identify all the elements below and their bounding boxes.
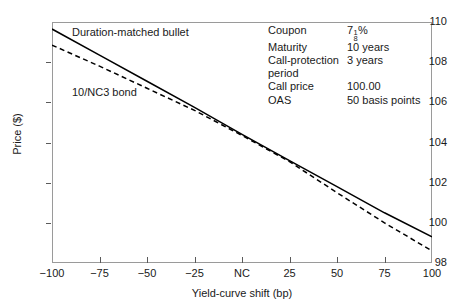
param-row: Call-protection3 years — [268, 54, 420, 67]
param-label: Maturity — [268, 41, 347, 54]
x-tick-mark — [100, 257, 101, 263]
param-row: Call price100.00 — [268, 80, 420, 93]
x-tick-label: 25 — [268, 268, 312, 279]
series-label-callable: 10/NC3 bond — [72, 86, 137, 98]
x-tick-mark — [147, 257, 148, 263]
x-tick-mark — [290, 257, 291, 263]
coupon-whole: 7 — [347, 24, 353, 36]
param-row: Coupon718% — [268, 24, 420, 41]
param-value: 100.00 — [347, 80, 381, 93]
y-tick-label: 102 — [401, 177, 447, 188]
y-tick-mark — [46, 102, 51, 103]
param-value: 3 years — [347, 54, 383, 67]
x-tick-label: 75 — [363, 268, 407, 279]
param-row: Maturity10 years — [268, 41, 420, 54]
coupon-percent-sign: % — [358, 24, 368, 36]
x-tick-mark — [385, 257, 386, 263]
param-label: Coupon — [268, 24, 347, 41]
y-axis-label: Price ($) — [11, 89, 23, 179]
param-value: 50 basis points — [347, 94, 420, 107]
y-tick-label: 100 — [401, 217, 447, 228]
param-value: 718% — [347, 24, 368, 41]
param-row: OAS50 basis points — [268, 94, 420, 107]
x-tick-mark — [195, 257, 196, 263]
x-tick-label: −25 — [173, 268, 217, 279]
x-tick-label: −100 — [30, 268, 74, 279]
x-axis-label: Yield-curve shift (bp) — [52, 287, 432, 299]
param-value: 10 years — [347, 41, 389, 54]
bond-parameters-box: Coupon718%Maturity10 yearsCall-protectio… — [268, 24, 420, 107]
param-label: OAS — [268, 94, 347, 107]
x-tick-label: 50 — [315, 268, 359, 279]
x-tick-label: −75 — [78, 268, 122, 279]
x-tick-mark — [242, 257, 243, 263]
param-label: Call price — [268, 80, 347, 93]
y-tick-mark — [46, 223, 51, 224]
y-tick-mark — [46, 143, 51, 144]
y-tick-mark — [46, 183, 51, 184]
param-row: period — [268, 67, 420, 80]
x-tick-label: NC — [220, 268, 264, 279]
x-tick-label: 100 — [410, 268, 452, 279]
x-tick-mark — [337, 257, 338, 263]
x-tick-label: −50 — [125, 268, 169, 279]
param-label: period — [268, 67, 347, 80]
series-label-bullet: Duration-matched bullet — [72, 26, 189, 38]
y-tick-label: 104 — [401, 137, 447, 148]
y-tick-mark — [46, 62, 51, 63]
param-label: Call-protection — [268, 54, 347, 67]
